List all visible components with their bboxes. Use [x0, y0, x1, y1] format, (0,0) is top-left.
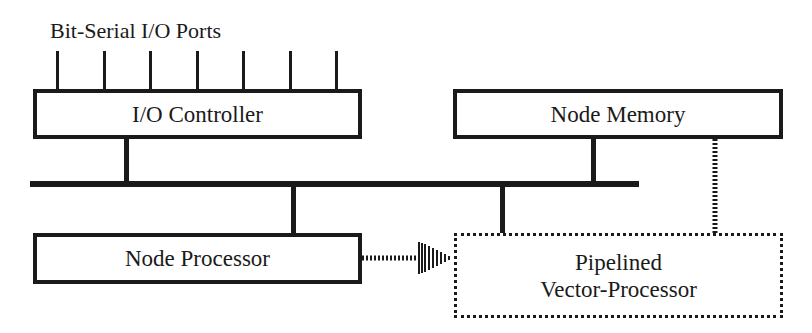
dotted-connectors — [0, 0, 812, 333]
arrowhead-icon — [418, 242, 450, 274]
